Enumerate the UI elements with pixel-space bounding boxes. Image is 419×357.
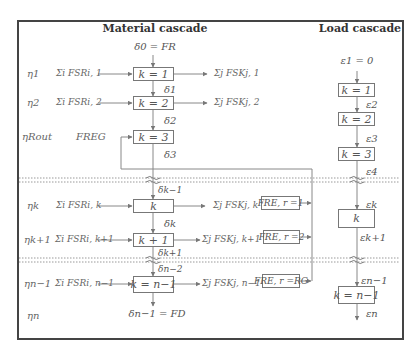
eta-k-plus-1-label: ηk+1 [24,234,51,245]
load-input-label: ε1 = 0 [341,55,374,66]
fre-box-r2: FRE, r =2 [263,230,300,244]
load-stage-2: k = 2 [338,112,375,126]
epsilon-k-label: εk [366,199,377,210]
epsilon-n-label: εn [366,308,378,319]
output-sum-2: Σj FSKj, 2 [214,97,259,107]
material-stage-1: k = 1 [133,67,174,81]
epsilon-k-plus-1-label: εk+1 [360,232,386,243]
epsilon-3-label: ε3 [366,133,378,144]
load-stage-3: k = 3 [338,147,375,161]
delta-k-plus-1-label: δk+1 [158,248,182,258]
input-sum-n-minus-1: Σi FSRi, n−1 [55,278,114,288]
delta-1-label: δ1 [164,84,176,95]
eta-2-label: η2 [27,97,39,108]
epsilon-2-label: ε2 [366,99,378,110]
material-output-label: δn−1 = FD [129,308,186,319]
input-freg: FREG [76,131,106,142]
input-sum-k-plus-1: Σi FSRi, k+1 [55,234,114,244]
eta-1-label: η1 [27,68,39,79]
load-stage-k: k [338,209,375,228]
eta-n-label: ηn [27,310,39,321]
epsilon-n-minus-1-label: εn−1 [361,275,388,286]
input-sum-2: Σi FSRi, 2 [56,97,102,107]
eta-rout-label: ηRout [22,131,52,142]
material-stage-n-minus-1: k = n−1 [133,276,174,293]
delta-3-label: δ3 [164,149,176,160]
load-stage-1: k = 1 [338,83,375,97]
fre-box-rg: FRE, r =RG [262,274,300,288]
delta-2-label: δ2 [164,115,176,126]
material-stage-2: k = 2 [133,96,174,110]
input-sum-1: Σi FSRi, 1 [56,68,102,78]
eta-n-minus-1-label: ηn−1 [24,278,51,289]
input-sum-k: Σi FSRi, k [56,200,101,210]
delta-n-minus-2-label: δn−2 [158,264,182,274]
material-stage-k: k [133,199,174,213]
delta-k-minus-1-label: δk−1 [158,185,182,195]
material-cascade-title: Material cascade [102,22,207,35]
material-input-label: δ0 = FR [134,41,176,52]
material-stage-3: k = 3 [133,130,174,144]
eta-k-label: ηk [27,200,39,211]
fre-box-r1: FRE, r =1 [261,196,300,210]
output-sum-1: Σj FSKj, 1 [214,68,259,78]
load-cascade-title: Load cascade [319,22,401,35]
delta-k-label: δk [164,218,176,229]
epsilon-4-label: ε4 [366,166,378,177]
material-stage-k-plus-1: k + 1 [133,233,174,247]
load-stage-n-minus-1: k = n−1 [338,286,375,304]
